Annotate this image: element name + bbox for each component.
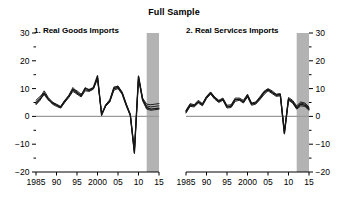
x-tick-label: 95: [222, 177, 232, 187]
x-tick-label: 2000: [88, 177, 107, 187]
x-tick-label: 90: [202, 177, 212, 187]
y-tick-label: 0: [316, 111, 321, 121]
chart-figure: Full Sample 1. Real Goods Imports 198590…: [0, 0, 348, 200]
y-tick-label: −20: [15, 167, 30, 177]
panel-2-plot: 1985909520000510153020100−10−20: [174, 0, 348, 200]
series-line: [36, 76, 159, 154]
y-tick-label: −10: [15, 139, 30, 149]
panel-1-plot: 1985909520000510153020100−10−20: [0, 0, 174, 200]
x-tick-label: 10: [134, 177, 144, 187]
x-tick-label: 15: [304, 177, 314, 187]
series-line: [186, 89, 309, 132]
x-tick-label: 05: [263, 177, 273, 187]
series-line: [186, 91, 309, 134]
forecast-shading: [147, 33, 159, 172]
x-tick-label: 15: [154, 177, 164, 187]
x-tick-label: 1985: [27, 177, 46, 187]
x-tick-label: 05: [113, 177, 123, 187]
y-tick-label: 0: [25, 111, 30, 121]
x-tick-label: 2000: [238, 177, 257, 187]
y-tick-label: 20: [20, 56, 30, 66]
x-tick-label: 95: [72, 177, 82, 187]
y-tick-label: 20: [316, 56, 326, 66]
x-tick-label: 90: [52, 177, 62, 187]
y-tick-label: 10: [20, 84, 30, 94]
y-tick-label: 30: [316, 28, 326, 38]
x-tick-label: 10: [284, 177, 294, 187]
y-tick-label: −10: [316, 139, 331, 149]
panel-real-goods-imports: 1. Real Goods Imports 198590952000051015…: [0, 0, 174, 200]
y-tick-label: 10: [316, 84, 326, 94]
x-tick-label: 1985: [177, 177, 196, 187]
panel-real-services-imports: 2. Real Services Imports 198590952000051…: [174, 0, 348, 200]
y-tick-label: −20: [316, 167, 331, 177]
y-tick-label: 30: [20, 28, 30, 38]
